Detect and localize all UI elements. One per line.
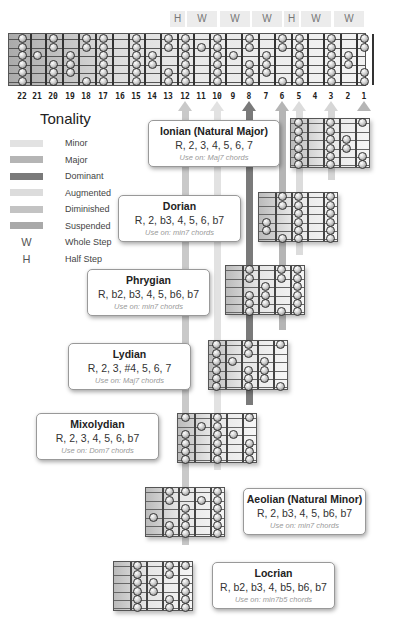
note-dot	[245, 274, 254, 283]
note-dot	[326, 192, 335, 201]
mode-usage: Use on: min7 chords	[244, 520, 365, 532]
mode-formula: R, 2, b3, 4, 5, b6, b7	[244, 506, 365, 520]
note-dot	[181, 77, 190, 86]
fret-wire	[291, 193, 293, 241]
fret-wire	[225, 341, 227, 389]
fret-number: 5	[291, 92, 307, 101]
fret-wire	[225, 34, 227, 85]
mode-formula: R, 2, 3, 4, 5, 6, 7	[149, 138, 279, 152]
fret-wire	[62, 34, 64, 85]
note-dot	[181, 603, 190, 612]
step-label: W	[334, 11, 364, 27]
note-dot	[148, 51, 157, 60]
note-dot	[181, 529, 190, 538]
note-dot	[358, 160, 367, 169]
note-dot	[33, 51, 42, 60]
note-dot	[245, 68, 254, 77]
note-dot	[327, 77, 336, 86]
fret-wire	[258, 34, 260, 85]
note-dot	[213, 34, 222, 43]
note-dot	[133, 578, 142, 587]
legend-label: Major	[65, 155, 88, 165]
note-dot	[244, 382, 253, 391]
fret-number: 1	[356, 92, 372, 101]
note-dot	[49, 43, 58, 52]
note-dot	[197, 43, 206, 52]
mode-name: Phrygian	[88, 274, 209, 287]
note-dot	[344, 51, 353, 60]
fret-wire	[146, 562, 148, 610]
fret-number: 4	[307, 92, 323, 101]
fret-number: 19	[62, 92, 78, 101]
legend-item-augmented: Augmented	[10, 187, 111, 199]
note-dot	[244, 349, 253, 358]
note-dot	[149, 578, 158, 587]
note-dot	[245, 413, 254, 422]
note-dot	[294, 234, 303, 243]
note-dot	[149, 513, 158, 522]
mode-fretboard	[177, 413, 257, 463]
fret-number: 3	[323, 92, 339, 101]
note-dot	[213, 487, 222, 496]
note-dot	[213, 68, 222, 77]
note-dot	[18, 34, 27, 43]
note-dot	[165, 603, 174, 612]
fret-number: 11	[193, 92, 209, 101]
step-label: H	[284, 11, 299, 27]
arrow-up-icon	[292, 101, 306, 111]
note-dot	[213, 430, 222, 439]
note-dot	[245, 43, 254, 52]
note-dot	[213, 51, 222, 60]
fret-wire	[112, 34, 114, 85]
note-dot	[277, 274, 286, 283]
note-dot	[165, 570, 174, 579]
note-dot	[197, 422, 206, 431]
fret-wire	[210, 488, 212, 536]
fret-wire	[128, 34, 130, 85]
legend-item-dominant: Dominant	[10, 170, 104, 182]
note-dot	[326, 234, 335, 243]
note-dot	[99, 68, 108, 77]
note-dot	[212, 340, 221, 349]
note-dot	[276, 340, 285, 349]
fret-wire	[372, 34, 374, 85]
note-dot	[327, 51, 336, 60]
note-dot	[327, 68, 336, 77]
fret-wire	[194, 414, 196, 462]
note-dot	[360, 34, 369, 43]
note-dot	[82, 77, 91, 86]
arrow-up-icon	[357, 101, 371, 111]
note-dot	[165, 529, 174, 538]
note-dot	[18, 77, 27, 86]
mode-formula: R, 2, 3, #4, 5, 6, 7	[69, 361, 190, 375]
step-label: W	[252, 11, 282, 27]
fret-wire	[273, 341, 275, 389]
mode-card-phrygian: PhrygianR, b2, b3, 4, 5, b6, b7Use on: m…	[87, 269, 210, 316]
note-dot	[18, 51, 27, 60]
fret-wire	[242, 266, 244, 314]
fret-number: 9	[225, 92, 241, 101]
fret-number: 16	[112, 92, 128, 101]
mode-name: Mixolydian	[37, 418, 158, 431]
note-dot	[49, 34, 58, 43]
fret-wire	[307, 34, 309, 85]
mode-fretboard	[290, 118, 370, 168]
mode-usage: Use on: min7b5 chords	[213, 594, 334, 606]
note-dot	[132, 77, 141, 86]
note-dot	[181, 34, 190, 43]
fret-number: 6	[274, 92, 290, 101]
note-dot	[293, 265, 302, 274]
fret-wire	[144, 34, 146, 85]
legend-label: Diminished	[65, 204, 110, 214]
fret-number: 13	[160, 92, 176, 101]
note-dot	[213, 504, 222, 513]
legend-label: Whole Step	[65, 237, 112, 247]
note-dot	[244, 340, 253, 349]
fret-wire	[209, 34, 211, 85]
fret-wire	[78, 34, 80, 85]
arrow-up-icon	[324, 101, 338, 111]
tonality-bar-fret-12	[182, 110, 189, 545]
note-dot	[262, 226, 271, 235]
note-dot	[278, 192, 287, 201]
note-dot	[262, 68, 271, 77]
